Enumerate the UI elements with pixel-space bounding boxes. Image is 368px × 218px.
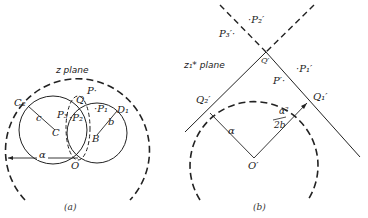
z-plane-label: z plane <box>56 66 89 75</box>
label-center-c: C <box>52 128 60 138</box>
label-p3: P₃ <box>57 110 68 120</box>
label-p1: ·P₁ <box>94 104 108 114</box>
label-c-radius: c <box>36 113 42 123</box>
label-alpha-squared: α² <box>279 107 289 116</box>
diagram-canvas <box>0 0 368 218</box>
label-p3-prime: P₃′· <box>219 29 235 39</box>
label-q: Q <box>76 95 84 105</box>
label-center-b: B <box>92 134 99 144</box>
label-q1-prime: Q₁′ <box>313 92 327 102</box>
label-p-prime: P′· <box>273 76 285 86</box>
dashed-arc-b <box>190 102 318 200</box>
label-c2: C₂ <box>14 98 26 108</box>
label-p: P· <box>87 86 97 96</box>
label-b-radius: b <box>108 117 114 127</box>
label-o-prime: O′ <box>248 161 258 171</box>
arrowhead-alpha-a <box>8 156 13 160</box>
label-p2-prime: ·P₂′ <box>248 15 264 25</box>
z1-star-plane-label: z₁* plane <box>184 61 225 70</box>
dashed-inner-circle <box>66 96 90 160</box>
panel-b-geometry <box>185 5 360 200</box>
label-q2-prime: Q₂′ <box>196 95 210 105</box>
dashed-line-right <box>266 5 314 52</box>
label-d1: D₁ <box>117 105 129 115</box>
label-o: O <box>71 161 79 171</box>
label-alpha-a: α <box>37 150 48 160</box>
label-2b: 2b <box>274 121 286 130</box>
label-p1-prime: ·P₁′ <box>296 64 312 74</box>
caption-a: (a) <box>64 203 76 212</box>
caption-b: (b) <box>253 203 266 212</box>
label-alpha-b: α <box>228 126 235 136</box>
label-q-prime: Q′ <box>261 57 269 65</box>
label-p2: ·P₂ <box>69 113 83 123</box>
